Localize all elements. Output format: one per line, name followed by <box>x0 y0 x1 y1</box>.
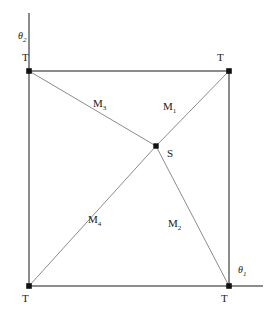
node-label-t-bottom-right: T <box>221 293 228 304</box>
node-marker-top-right <box>226 68 232 74</box>
segment-label-m2: M2 <box>168 218 181 232</box>
segment-m2-line <box>156 146 229 286</box>
node-label-t-top-right: T <box>217 52 224 63</box>
node-marker-bottom-left <box>26 283 32 289</box>
node-label-t-top-left: T <box>22 52 29 63</box>
segment-label-m3: M3 <box>93 98 106 112</box>
diagram-canvas: θ2 θ1 T T T T S M1 M2 M3 M4 <box>0 0 272 315</box>
theta-2-axis-label: θ2 <box>18 31 26 44</box>
diagram-svg <box>0 0 272 315</box>
segment-label-m1: M1 <box>163 101 176 115</box>
segment-label-m4: M4 <box>88 214 101 228</box>
node-label-t-bottom-left: T <box>22 293 29 304</box>
theta-1-axis-label: θ1 <box>238 265 246 278</box>
node-marker-top-left <box>26 68 32 74</box>
node-marker-center-s <box>153 143 158 148</box>
node-marker-bottom-right <box>226 283 232 289</box>
node-label-s: S <box>167 148 173 159</box>
